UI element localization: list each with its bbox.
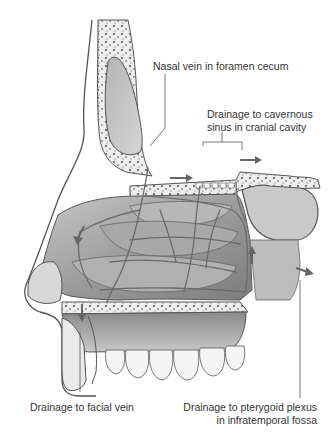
sphenoid-bone	[242, 185, 318, 300]
label-facial-vein: Drainage to facial vein	[30, 401, 134, 413]
label-cavernous-line2: sinus in cranial cavity	[207, 121, 306, 133]
hard-palate	[62, 302, 248, 352]
frontal-bone	[98, 20, 153, 176]
label-cavernous-line1: Drainage to cavernous	[207, 108, 313, 120]
label-pterygoid-line2: in infratemporal fossa	[217, 414, 317, 426]
label-pterygoid-line1: Drainage to pterygoid plexus	[183, 401, 317, 413]
teeth	[105, 346, 244, 380]
label-nasal-vein: Nasal vein in foramen cecum	[153, 60, 288, 72]
frontal-sinus	[105, 57, 142, 154]
